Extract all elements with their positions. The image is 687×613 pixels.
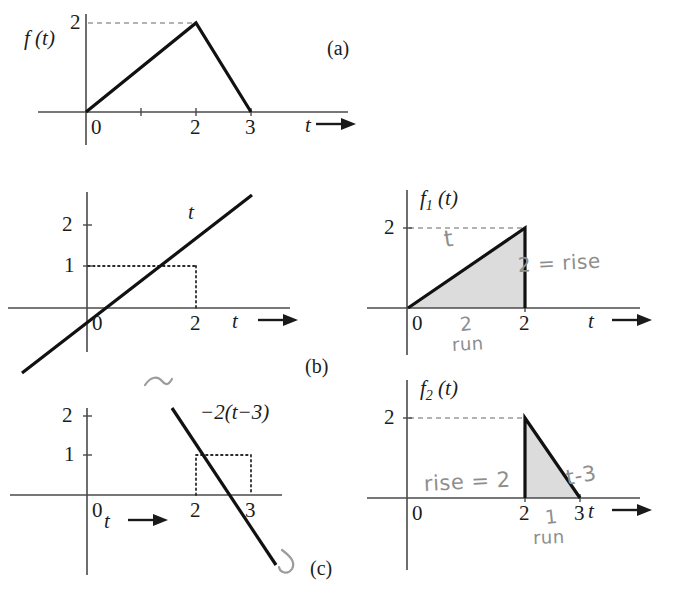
- t-arrow-head: [637, 504, 652, 516]
- curve-t: [22, 195, 252, 373]
- panel-c-left-x-label: t: [104, 511, 110, 532]
- panel-b-left-line-label: t: [188, 202, 194, 223]
- panel-b-left: 2 1 0 2 t t: [0, 180, 340, 360]
- panel-a-ytick-2: 2: [70, 12, 81, 33]
- t-arrow-head: [637, 314, 652, 326]
- handwritten-run-number: 2: [459, 314, 473, 334]
- panel-c-right-x-label: t: [588, 501, 594, 522]
- panel-c-right-xtick-0: 0: [412, 503, 423, 524]
- panel-c-left-xtick-2: 2: [190, 500, 201, 521]
- panel-tag-a: (a): [327, 38, 349, 58]
- handwritten-run-word: run: [452, 334, 485, 354]
- handwritten-tilde-mark: [145, 378, 172, 385]
- panel-a-xtick-2: 2: [190, 117, 201, 138]
- panel-b-right-ytick-2: 2: [384, 217, 395, 238]
- panel-c-right-ytick-2: 2: [384, 407, 395, 428]
- panel-b-right-xtick-2: 2: [519, 313, 530, 334]
- curve-minus2t3: [172, 408, 276, 565]
- fn-arg: (t): [438, 186, 458, 210]
- panel-a-xtick-0: 0: [91, 117, 102, 138]
- panel-c-right-plot: [340, 370, 687, 585]
- panel-b-left-x-label: t: [232, 311, 238, 332]
- panel-b-left-ytick-1: 1: [64, 255, 75, 276]
- handwritten-rise-label: rise = 2: [423, 469, 511, 495]
- panel-b-right-x-label: t: [588, 311, 594, 332]
- panel-a-y-label: f (t): [24, 28, 55, 49]
- handwritten-run-number: 1: [544, 507, 559, 527]
- panel-c-left-plot: [0, 370, 340, 585]
- handwritten-tail-mark: [279, 550, 293, 573]
- t-arrow-head: [153, 514, 168, 526]
- panel-b-right-plot: [340, 180, 687, 370]
- panel-b-left-xtick-0: 0: [92, 313, 103, 334]
- fn-arg: (t): [438, 376, 458, 400]
- handwritten-rise-label: 2 = rise: [517, 251, 601, 275]
- fn-subscript: 1: [426, 198, 433, 213]
- panel-b-left-plot: [0, 180, 340, 360]
- panel-a-xtick-3: 3: [245, 117, 256, 138]
- handwritten-run-word: run: [533, 528, 565, 547]
- panel-b-left-ytick-2: 2: [62, 214, 73, 235]
- panel-c-left-line-label: −2(t−3): [200, 402, 269, 423]
- panel-a: f (t) 2 0 2 3 t (a): [0, 0, 400, 160]
- handwritten-slope-label: t-3: [564, 463, 598, 489]
- panel-c-left-xtick-0: 0: [92, 500, 103, 521]
- panel-c-right: f2 (t) 2 0 2 3 t rise = 2 t-3 1 run: [340, 370, 687, 585]
- t-arrow-head: [341, 118, 356, 130]
- panel-c-right-xtick-2: 2: [519, 503, 530, 524]
- curve-f: [86, 23, 251, 112]
- panel-c-right-fn-label: f2 (t): [420, 378, 458, 403]
- panel-b-right-xtick-0: 0: [412, 313, 423, 334]
- panel-b-right-fn-label: f1 (t): [420, 188, 458, 213]
- panel-c-left-xtick-3: 3: [245, 500, 256, 521]
- dotted-box: [196, 455, 251, 495]
- fn-subscript: 2: [426, 388, 433, 403]
- panel-c-left-ytick-1: 1: [64, 444, 75, 465]
- panel-a-x-label: t: [305, 115, 311, 136]
- panel-b-left-xtick-2: 2: [190, 313, 201, 334]
- panel-c-left: 2 1 0 2 3 −2(t−3) t: [0, 370, 340, 585]
- t-arrow-head: [283, 314, 298, 326]
- panel-tag-c: (c): [310, 558, 332, 578]
- figure-container: f (t) 2 0 2 3 t (a) 2 1 0 2 t: [0, 0, 687, 613]
- panel-c-left-ytick-2: 2: [62, 405, 73, 426]
- panel-c-right-xtick-3: 3: [574, 503, 585, 524]
- panel-b-right: f1 (t) 2 0 2 t t 2 = rise 2 run: [340, 180, 687, 370]
